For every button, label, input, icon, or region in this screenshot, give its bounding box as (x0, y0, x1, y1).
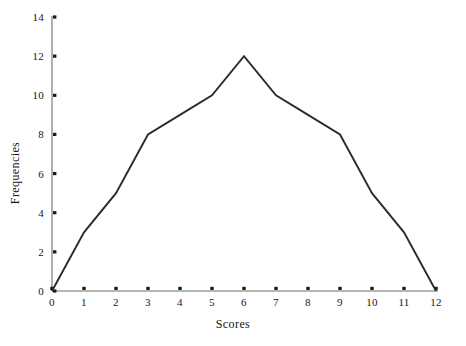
frequency-polygon-chart: 02468101214 0123456789101112 Frequencies… (0, 0, 466, 346)
x-tick-label: 12 (430, 296, 442, 308)
y-tick-mark (53, 94, 56, 97)
y-tick-mark (53, 55, 56, 58)
frequency-line-series (52, 56, 436, 291)
y-tick-mark (53, 211, 56, 214)
x-tick-label: 6 (241, 296, 247, 308)
x-tick-mark (114, 287, 117, 290)
x-tick-label: 9 (337, 296, 343, 308)
x-tick-mark (274, 287, 277, 290)
y-axis-title-wrap: Frequencies (6, 0, 24, 346)
x-tick-label: 3 (145, 296, 151, 308)
x-tick-mark (146, 287, 149, 290)
y-tick-mark (53, 15, 56, 18)
y-tick-mark (53, 250, 56, 253)
y-axis-title: Frequencies (8, 142, 23, 204)
x-tick-mark (210, 287, 213, 290)
chart-plot-area (0, 0, 466, 346)
x-tick-label: 0 (49, 296, 55, 308)
x-tick-mark (370, 287, 373, 290)
x-tick-mark (82, 287, 85, 290)
x-axis-title: Scores (0, 317, 466, 332)
x-tick-mark (178, 287, 181, 290)
x-tick-mark (242, 287, 245, 290)
y-tick-marks (53, 15, 56, 292)
x-tick-mark (402, 287, 405, 290)
x-tick-label: 2 (113, 296, 119, 308)
x-tick-label: 11 (398, 296, 409, 308)
y-tick-mark (53, 133, 56, 136)
x-tick-label: 7 (273, 296, 279, 308)
x-tick-label: 10 (366, 296, 378, 308)
x-tick-mark (306, 287, 309, 290)
x-tick-marks (50, 287, 437, 290)
x-tick-label: 5 (209, 296, 215, 308)
x-tick-mark (338, 287, 341, 290)
x-tick-label: 1 (81, 296, 87, 308)
x-tick-label: 4 (177, 296, 183, 308)
y-tick-mark (53, 172, 56, 175)
x-tick-label: 8 (305, 296, 311, 308)
